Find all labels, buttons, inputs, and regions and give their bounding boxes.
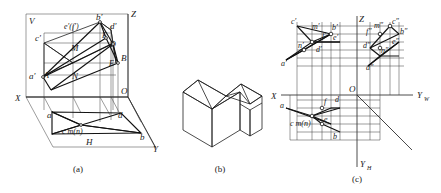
panel-a-proj-d: d: [118, 110, 123, 120]
panel-a-point-A: A: [43, 71, 49, 80]
panel-a-axis-Z: Z: [131, 9, 137, 19]
panel-c-label-b-prime: b′: [332, 23, 338, 32]
panel-a-axis-Y: Y: [153, 144, 159, 154]
panel-c-axis-Z: Z: [359, 14, 365, 24]
panel-a-proj-d-prime: d′: [110, 21, 118, 31]
panel-c-axis-YH-sub: H: [366, 165, 372, 171]
panel-a-point-D: D: [109, 40, 116, 49]
panel-c-label-a: a: [280, 101, 284, 110]
panel-a-point-F: F: [101, 31, 107, 40]
panel-c-label-d-prime: d′: [316, 45, 322, 54]
panel-c-label-d-dprime: d″: [363, 41, 371, 50]
panel-c-label-f: f: [324, 97, 328, 106]
panel-c-axis-YH-letter: Y: [360, 159, 366, 169]
panel-c-origin-O: O: [349, 84, 356, 94]
panel-c-axis-X: X: [270, 91, 277, 101]
panel-c-label-c-mn: c m(n): [290, 119, 311, 128]
descriptive-geometry-figure: V H X Y Z O A B D E F M N a′ b′ c′ d′ e′…: [0, 0, 441, 193]
panel-a-proj-c-mn: c m(n): [62, 127, 83, 136]
panel-a-proj-a: a: [47, 110, 52, 120]
panel-c-label-f-prime: f′: [322, 31, 326, 40]
panel-b-isometric-solid: (b): [183, 80, 262, 174]
panel-c-label-a-dprime: a″: [366, 63, 374, 72]
panel-c-label-c-prime: c′: [291, 17, 297, 26]
panel-c-label-f-dprime: f″: [366, 27, 372, 36]
panel-c-axis-YW-letter: Y: [417, 90, 423, 100]
panel-c-label-e-dprime: e″: [392, 37, 400, 46]
caption-c: (c): [352, 174, 362, 184]
caption-b: (b): [215, 164, 226, 174]
panel-a-label-V: V: [29, 16, 36, 26]
panel-c-label-m-prime: m′: [312, 22, 320, 31]
panel-c-label-n-dprime: n″: [381, 46, 389, 55]
panel-a-point-N: N: [71, 71, 79, 81]
panel-a-projection-system: V H X Y Z O A B D E F M N a′ b′ c′ d′ e′…: [14, 9, 159, 174]
panel-c-label-m-dprime: m″: [374, 21, 384, 30]
panel-c-three-view-projection: X Y W Y H Z O c′ m′ b′ n′ f′ e′ d′ a′ m″…: [270, 14, 430, 184]
panel-a-proj-b: b: [140, 132, 145, 142]
mitre-line: [357, 95, 400, 138]
side-view-grid: [370, 22, 399, 95]
panel-c-axis-YH: Y H: [360, 159, 372, 171]
panel-c-label-b-dprime: b″: [400, 27, 408, 36]
panel-c-label-a-prime: a′: [281, 59, 287, 68]
panel-c-label-b: b: [333, 132, 337, 141]
panel-c-axis-YW: Y W: [417, 90, 430, 102]
panel-c-label-d: d: [335, 95, 340, 104]
caption-a: (a): [73, 164, 83, 174]
panel-c-label-e-prime: e′: [333, 33, 339, 42]
panel-c-label-n-prime: n′: [298, 41, 304, 50]
panel-a-proj-b-prime: b′: [96, 12, 104, 22]
panel-a-proj-c-prime: c′: [35, 33, 42, 43]
panel-a-origin-O: O: [121, 86, 128, 96]
panel-a-label-H: H: [85, 137, 93, 147]
panel-a-point-B: B: [121, 53, 127, 63]
panel-c-label-e: e: [324, 115, 328, 124]
panel-c-axis-YW-sub: W: [424, 96, 430, 102]
panel-c-label-c-dprime: c″: [392, 17, 400, 26]
panel-a-point-E: E: [108, 59, 114, 68]
panel-a-proj-a-prime: a′: [29, 71, 37, 81]
panel-a-point-M: M: [70, 43, 79, 53]
panel-a-proj-ef-prime: e′(f′): [64, 22, 79, 31]
panel-a-axis-X: X: [14, 93, 21, 103]
